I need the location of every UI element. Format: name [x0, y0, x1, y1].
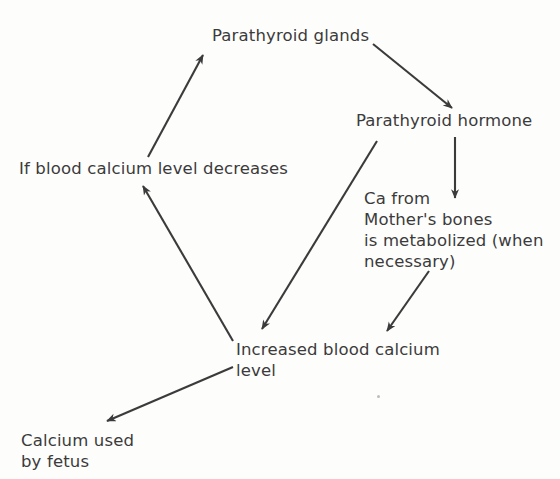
arrow-glands-to-hormone: [373, 44, 452, 108]
node-ca-mother-bones: Ca from Mother's bones is metabolized (w…: [364, 188, 544, 272]
node-parathyroid-glands: Parathyroid glands: [212, 25, 369, 46]
diagram-canvas: Parathyroid glands Parathyroid hormone I…: [0, 0, 560, 479]
arrow-bones-to-increased-calcium: [387, 271, 429, 331]
arrow-decreases-to-glands: [148, 55, 203, 157]
node-parathyroid-hormone: Parathyroid hormone: [356, 110, 532, 131]
page-speck: [377, 395, 380, 398]
arrow-increased-calcium-to-fetus: [107, 367, 233, 421]
node-increased-blood-calcium: Increased blood calcium level: [236, 339, 440, 381]
node-blood-calcium-decreases: If blood calcium level decreases: [19, 158, 288, 179]
arrow-increased-calcium-to-decreases: [143, 186, 233, 341]
node-calcium-used-fetus: Calcium used by fetus: [21, 430, 134, 472]
